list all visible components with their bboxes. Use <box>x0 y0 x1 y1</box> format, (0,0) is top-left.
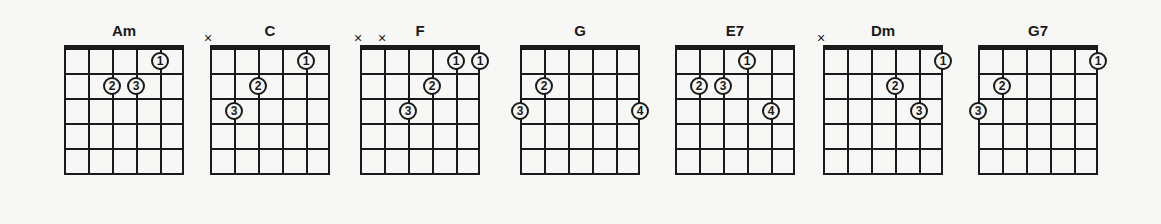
muted-string-icon: × <box>354 30 362 46</box>
finger-dot: 1 <box>297 52 315 70</box>
finger-dot: 3 <box>714 77 732 95</box>
finger-dot: 1 <box>738 52 756 70</box>
finger-dot: 3 <box>225 102 243 120</box>
finger-dot: 2 <box>103 77 121 95</box>
finger-dot: 4 <box>762 102 780 120</box>
string-line <box>1050 50 1052 173</box>
string-line <box>616 50 618 173</box>
chord-diagram-g <box>520 45 640 175</box>
string-line <box>282 50 284 173</box>
fret-line <box>522 148 638 150</box>
string-line <box>544 50 546 173</box>
string-line <box>895 50 897 173</box>
fret-line <box>522 98 638 100</box>
string-line <box>1026 50 1028 173</box>
fret-line <box>677 73 793 75</box>
string-line <box>568 50 570 173</box>
string-line <box>847 50 849 173</box>
muted-string-icon: × <box>204 30 212 46</box>
fret-line <box>212 148 328 150</box>
finger-dot: 1 <box>1089 52 1107 70</box>
string-line <box>723 50 725 173</box>
string-line <box>592 50 594 173</box>
fret-line <box>825 73 941 75</box>
finger-dot: 2 <box>535 77 553 95</box>
string-line <box>258 50 260 173</box>
chord-diagram-g7 <box>978 45 1098 175</box>
chord-name: Dm <box>823 22 943 39</box>
finger-dot: 3 <box>127 77 145 95</box>
fret-line <box>362 98 478 100</box>
fret-line <box>212 123 328 125</box>
fret-line <box>212 98 328 100</box>
string-line <box>1074 50 1076 173</box>
string-line <box>871 50 873 173</box>
fret-line <box>522 73 638 75</box>
muted-string-icon: × <box>817 30 825 46</box>
string-line <box>432 50 434 173</box>
finger-dot: 4 <box>631 102 649 120</box>
finger-dot: 3 <box>910 102 928 120</box>
fret-line <box>362 123 478 125</box>
fret-line <box>825 98 941 100</box>
string-line <box>1002 50 1004 173</box>
fret-line <box>677 98 793 100</box>
fret-line <box>66 98 182 100</box>
finger-dot: 1 <box>934 52 952 70</box>
chord-name: G7 <box>978 22 1098 39</box>
string-line <box>88 50 90 173</box>
fret-line <box>66 123 182 125</box>
string-line <box>699 50 701 173</box>
finger-dot: 1 <box>471 52 489 70</box>
chord-name: E7 <box>675 22 795 39</box>
fret-line <box>66 148 182 150</box>
string-line <box>112 50 114 173</box>
muted-string-icon: × <box>378 30 386 46</box>
fret-line <box>677 148 793 150</box>
fret-line <box>212 73 328 75</box>
fret-line <box>980 148 1096 150</box>
finger-dot: 2 <box>423 77 441 95</box>
finger-dot: 1 <box>447 52 465 70</box>
fret-line <box>980 123 1096 125</box>
string-line <box>384 50 386 173</box>
finger-dot: 2 <box>886 77 904 95</box>
finger-dot: 2 <box>249 77 267 95</box>
fret-line <box>522 123 638 125</box>
finger-dot: 2 <box>993 77 1011 95</box>
finger-dot: 3 <box>399 102 417 120</box>
chord-name: C <box>210 22 330 39</box>
chord-name: Am <box>64 22 184 39</box>
finger-dot: 2 <box>690 77 708 95</box>
fret-line <box>362 73 478 75</box>
chord-name: G <box>520 22 640 39</box>
fret-line <box>980 98 1096 100</box>
fret-line <box>825 123 941 125</box>
string-line <box>136 50 138 173</box>
finger-dot: 1 <box>151 52 169 70</box>
fret-line <box>362 148 478 150</box>
fret-line <box>677 123 793 125</box>
fret-line <box>66 73 182 75</box>
finger-dot: 3 <box>511 102 529 120</box>
finger-dot: 3 <box>969 102 987 120</box>
fret-line <box>825 148 941 150</box>
fret-line <box>980 73 1096 75</box>
